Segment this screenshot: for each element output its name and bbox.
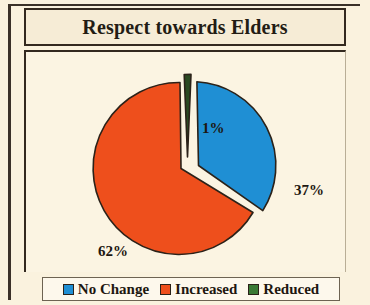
- data-label-no-change: 37%: [294, 182, 324, 199]
- legend-label-no-change: No Change: [78, 282, 149, 297]
- chart-legend: No Change Increased Reduced: [42, 277, 340, 301]
- legend-swatch-no-change: [63, 284, 74, 295]
- legend-swatch-reduced: [248, 284, 259, 295]
- pie-slice-reduced: [184, 74, 191, 157]
- data-label-increased: 62%: [98, 243, 128, 260]
- pie-chart-svg: [26, 52, 348, 274]
- legend-label-increased: Increased: [175, 282, 237, 297]
- legend-item-increased: Increased: [160, 282, 237, 297]
- legend-item-no-change: No Change: [63, 282, 149, 297]
- chart-figure: Respect towards Elders 37% 62% 1% No Cha…: [0, 0, 370, 305]
- chart-title-band: Respect towards Elders: [24, 8, 346, 46]
- legend-item-reduced: Reduced: [248, 282, 319, 297]
- pie-plot-area: 37% 62% 1%: [24, 50, 346, 272]
- legend-label-reduced: Reduced: [263, 282, 319, 297]
- legend-swatch-increased: [160, 284, 171, 295]
- data-label-reduced: 1%: [202, 120, 225, 137]
- page-title: Respect towards Elders: [82, 16, 287, 39]
